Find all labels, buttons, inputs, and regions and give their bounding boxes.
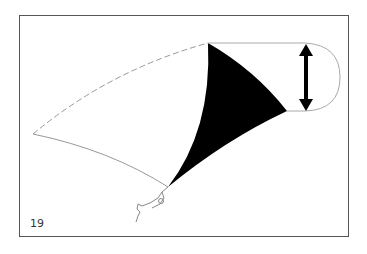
wing-trailing-line [33,134,168,187]
figure-number: 19 [30,217,44,230]
shaded-wing-section [168,43,287,187]
double-arrow-icon [299,44,313,111]
dashed-wing-edge [33,43,208,134]
paraglider-diagram [0,0,367,254]
pilot-icon [136,187,168,222]
